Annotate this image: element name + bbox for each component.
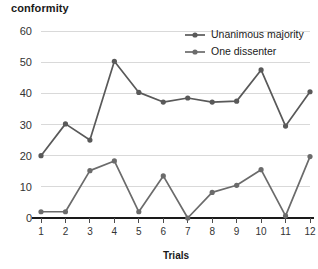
data-series	[38, 59, 312, 221]
y-axis-tick-label: 40	[20, 87, 32, 99]
y-axis-tick-labels: 0102030405060	[20, 25, 32, 224]
data-point	[307, 89, 312, 94]
series-line	[41, 61, 310, 155]
data-point	[234, 183, 239, 188]
data-point	[63, 209, 68, 214]
y-axis-tick-label: 60	[20, 25, 32, 37]
data-point	[87, 137, 92, 142]
data-point	[307, 154, 312, 159]
line-chart-plot: 0102030405060 123456789101112 Trials Una…	[0, 0, 318, 269]
x-axis-tick-label: 7	[185, 226, 191, 237]
data-point	[161, 99, 166, 104]
data-point	[161, 173, 166, 178]
data-point	[185, 95, 190, 100]
x-axis	[32, 218, 314, 223]
data-point	[136, 209, 141, 214]
y-axis-tick-label: 0	[26, 212, 32, 224]
data-point	[283, 123, 288, 128]
y-axis-tick-label: 20	[20, 150, 32, 162]
data-point	[87, 168, 92, 173]
y-axis-tick-label: 30	[20, 119, 32, 131]
legend-marker-icon	[192, 32, 197, 37]
x-axis-tick-label: 12	[304, 226, 316, 237]
x-axis-tick-label: 5	[136, 226, 142, 237]
y-axis-tick-label: 50	[20, 56, 32, 68]
x-axis-tick-label: 3	[87, 226, 93, 237]
chart-container: conformity 0102030405060 123456789101112…	[0, 0, 318, 269]
x-axis-tick-label: 6	[160, 226, 166, 237]
x-axis-tick-label: 8	[209, 226, 215, 237]
legend-item: Unanimous majority	[185, 28, 305, 40]
x-axis-tick-label: 11	[280, 226, 291, 237]
data-point	[112, 59, 117, 64]
x-axis-title: Trials	[163, 250, 190, 261]
data-point	[136, 90, 141, 95]
legend-label: One dissenter	[211, 45, 277, 57]
y-axis-tick-label: 10	[20, 181, 32, 193]
x-axis-tick-label: 2	[63, 226, 69, 237]
data-point	[258, 167, 263, 172]
data-point	[210, 99, 215, 104]
data-point	[234, 99, 239, 104]
legend-item: One dissenter	[185, 45, 277, 57]
x-axis-tick-label: 1	[38, 226, 44, 237]
x-axis-tick-label: 9	[234, 226, 240, 237]
x-axis-tick-label: 10	[256, 226, 268, 237]
x-axis-tick-labels: 123456789101112	[38, 226, 316, 237]
data-point	[185, 215, 190, 220]
series-unanimous-majority	[38, 59, 312, 159]
data-point	[38, 153, 43, 158]
data-point	[283, 213, 288, 218]
data-point	[112, 158, 117, 163]
data-point	[38, 209, 43, 214]
data-point	[210, 190, 215, 195]
chart-legend: Unanimous majorityOne dissenter	[185, 28, 305, 57]
x-axis-tick-label: 4	[112, 226, 118, 237]
legend-label: Unanimous majority	[211, 28, 305, 40]
data-point	[258, 67, 263, 72]
data-point	[63, 121, 68, 126]
legend-marker-icon	[192, 49, 197, 54]
